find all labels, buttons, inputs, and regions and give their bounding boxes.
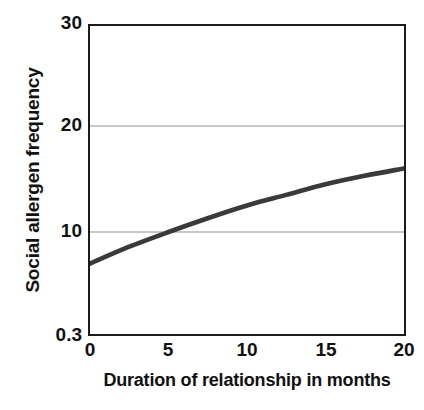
x-tick-label-5: 5: [148, 339, 188, 361]
x-axis-title: Duration of relationship in months: [88, 370, 406, 391]
chart-figure: Social allergen frequency 30 20 10 0.3 0…: [0, 0, 424, 410]
x-tick-label-20: 20: [384, 339, 424, 361]
x-tick-label-10: 10: [227, 339, 267, 361]
x-tick-label-0: 0: [70, 339, 110, 361]
x-axis-tick-labels: 0 5 10 15 20: [0, 0, 424, 410]
x-tick-label-15: 15: [306, 339, 346, 361]
